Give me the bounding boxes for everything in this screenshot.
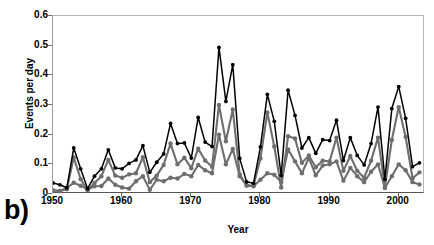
x-tick-label: 2000 [376, 196, 420, 206]
data-point [113, 166, 117, 170]
y-tick-mark [48, 45, 52, 46]
data-point [265, 92, 269, 96]
data-point [390, 138, 394, 142]
data-point [217, 132, 221, 136]
data-point [300, 146, 304, 150]
data-point [383, 177, 387, 181]
data-point [286, 134, 290, 138]
data-point [362, 175, 366, 179]
data-point [189, 166, 193, 170]
data-point [210, 145, 214, 149]
data-point [53, 181, 55, 185]
data-point [314, 173, 318, 177]
data-point [259, 145, 263, 149]
data-point [362, 180, 366, 184]
data-point [293, 113, 297, 117]
data-point [168, 175, 172, 179]
data-point [279, 174, 283, 178]
data-point [355, 174, 359, 178]
data-point [355, 169, 359, 173]
data-point [196, 146, 200, 150]
data-point [224, 139, 228, 143]
y-axis-tick-labels: 00.10.20.30.40.50.6 [14, 0, 48, 245]
data-point [403, 135, 407, 139]
data-point [307, 136, 311, 140]
data-point [328, 139, 332, 143]
data-point [417, 170, 421, 174]
data-point [176, 142, 180, 146]
data-point [224, 100, 228, 104]
data-point [141, 155, 145, 159]
data-point [300, 161, 304, 165]
x-tick-mark [190, 193, 191, 197]
data-point [161, 163, 165, 167]
x-tick-mark [329, 193, 330, 197]
data-point [307, 153, 311, 157]
data-point [58, 189, 62, 193]
plot-area [52, 15, 424, 193]
data-point [272, 144, 276, 148]
data-point [231, 63, 235, 67]
data-point [134, 171, 138, 175]
data-point [383, 185, 387, 189]
data-point [397, 85, 401, 89]
data-point [320, 159, 324, 163]
data-point [417, 182, 421, 186]
x-axis-title: Year [52, 224, 424, 235]
data-point [258, 178, 262, 182]
series-line [53, 47, 419, 188]
y-tick-label: 0.6 [18, 10, 48, 20]
data-point [390, 107, 394, 111]
data-point [321, 138, 325, 142]
data-point [203, 140, 207, 144]
data-point [231, 107, 235, 111]
data-point [148, 180, 152, 184]
series-lower-gray [53, 132, 422, 193]
data-point [106, 148, 110, 152]
data-point [418, 161, 422, 165]
x-tick-label: 1950 [30, 196, 74, 206]
data-point [120, 185, 124, 189]
data-point [182, 156, 186, 160]
data-point [348, 154, 352, 158]
data-point [58, 183, 62, 187]
data-point [175, 162, 179, 166]
data-point [189, 174, 193, 178]
data-point [224, 162, 228, 166]
y-tick-mark [48, 134, 52, 135]
data-point [93, 174, 97, 178]
data-point [355, 154, 359, 158]
data-point [327, 159, 331, 163]
data-point [314, 151, 318, 155]
x-tick-mark [259, 193, 260, 197]
data-point [189, 156, 193, 160]
data-point [106, 176, 110, 180]
data-point [99, 174, 103, 178]
data-point [237, 172, 241, 176]
data-point [182, 141, 186, 145]
data-point [127, 186, 131, 190]
y-tick-label: 0.2 [18, 129, 48, 139]
data-point [265, 171, 269, 175]
data-point [411, 165, 415, 169]
data-point [182, 172, 186, 176]
data-point [134, 158, 138, 162]
data-point [217, 103, 221, 107]
data-point [300, 171, 304, 175]
data-point [155, 173, 159, 177]
data-point [362, 163, 366, 167]
x-tick-label: 1970 [168, 196, 212, 206]
data-point [86, 187, 90, 191]
x-tick-label: 1980 [237, 196, 281, 206]
data-point [148, 188, 152, 192]
data-point [210, 171, 214, 175]
data-point [196, 163, 200, 167]
data-point [79, 167, 83, 171]
y-tick-mark [48, 74, 52, 75]
data-point [72, 146, 76, 150]
data-point [203, 168, 207, 172]
data-point [155, 160, 159, 164]
data-point [397, 162, 401, 166]
data-point [334, 135, 338, 139]
data-point [244, 183, 248, 187]
